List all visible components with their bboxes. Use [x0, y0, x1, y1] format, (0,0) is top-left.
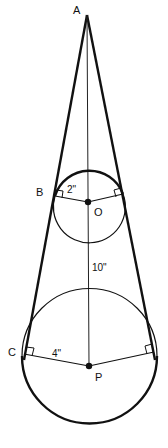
center-line [87, 15, 89, 366]
label-P: P [95, 371, 102, 383]
label-A: A [73, 4, 81, 16]
large-circle-top-arc [22, 289, 157, 357]
label-B: B [36, 186, 43, 198]
radius-OB [55, 196, 88, 202]
center-dot-O [85, 199, 91, 205]
label-large-radius: 4" [52, 348, 62, 359]
radius-O-right [88, 194, 123, 202]
label-C: C [8, 346, 16, 358]
center-dot-P [86, 363, 92, 369]
radius-P-right [89, 352, 154, 366]
label-center-distance: 10" [92, 262, 107, 273]
label-O: O [94, 206, 103, 218]
tangent-line-left [24, 15, 87, 360]
tangent-circles-diagram: A B O C P 2" 10" 4" [0, 0, 168, 448]
label-small-radius: 2" [67, 184, 77, 195]
small-circle-top-arc [55, 171, 123, 196]
